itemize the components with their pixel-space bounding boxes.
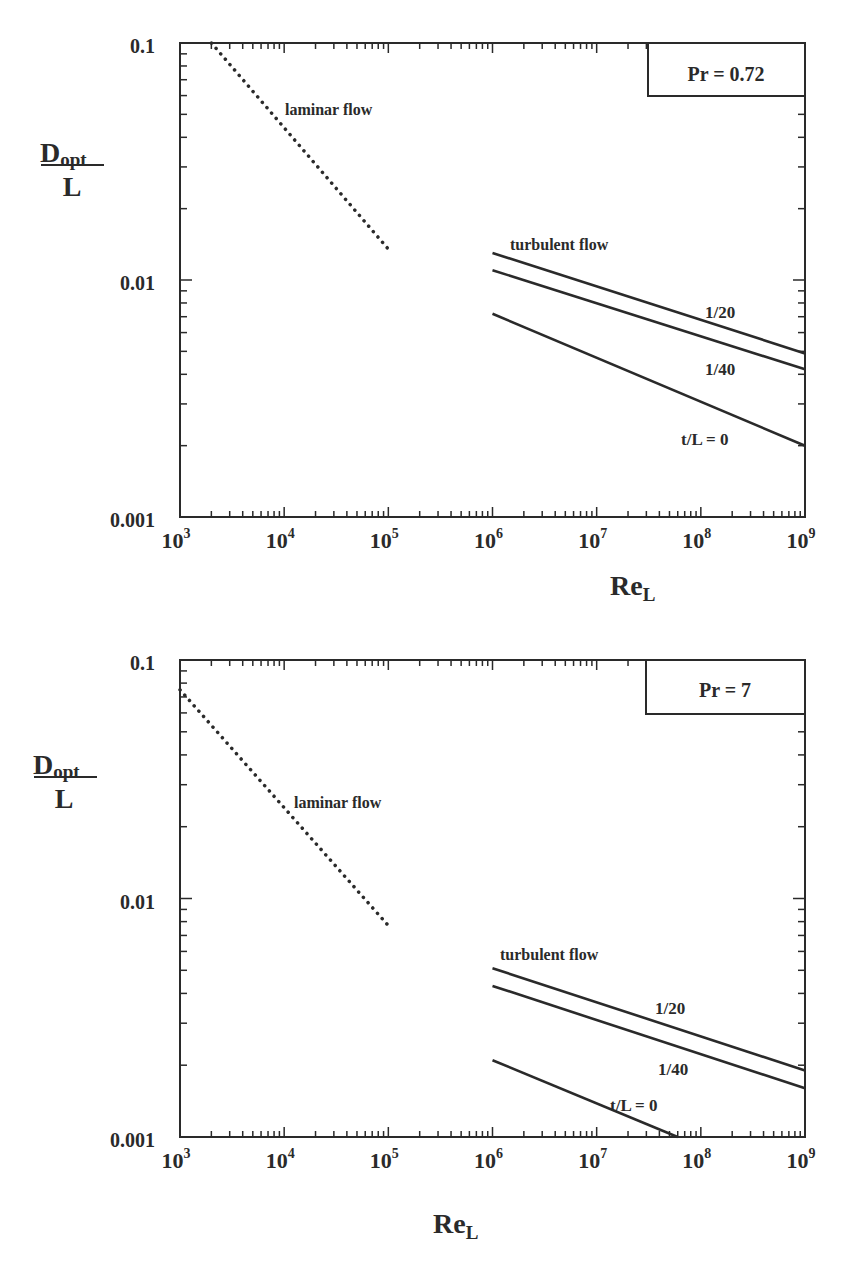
curve-label-1-20: 1/20: [705, 303, 735, 322]
laminar-flow-label: laminar flow: [285, 101, 373, 118]
curve-label-1-20: 1/20: [655, 999, 685, 1018]
x-tick-label: 103: [162, 526, 191, 553]
figure: Pr = 0.72 0.1 0.01 0.001 Dopt L 10310410…: [0, 0, 854, 1268]
plot-bottom: Pr = 7 0.1 0.01 0.001 Dopt L 10310410510…: [33, 652, 816, 1243]
curve-label-t-l-0: t/L = 0: [681, 430, 728, 449]
x-tick-labels: 103104105106107108109: [162, 1146, 816, 1173]
x-tick-label: 107: [578, 1146, 607, 1173]
x-axis-label: ReL: [610, 570, 655, 605]
turbulent-flow-curve: [493, 253, 806, 353]
y-tick-label: 0.001: [110, 509, 155, 531]
curves: [180, 690, 805, 1137]
y-tick-label: 0.1: [130, 652, 155, 674]
x-tick-label: 108: [682, 526, 711, 553]
y-tick-label: 0.01: [120, 272, 155, 294]
turbulent-flow-label: turbulent flow: [500, 946, 599, 963]
curve-label-1-40: 1/40: [658, 1060, 688, 1079]
x-tick-label: 107: [578, 526, 607, 553]
x-tick-label: 103: [162, 1146, 191, 1173]
prandtl-label: Pr = 7: [699, 679, 751, 701]
turbulent-flow-curve: [493, 270, 806, 369]
turbulent-flow-label: turbulent flow: [510, 236, 609, 253]
ticks: [180, 660, 805, 1137]
laminar-flow-curve: [211, 43, 388, 249]
y-tick-label: 0.01: [120, 891, 155, 913]
laminar-flow-label: laminar flow: [294, 794, 382, 811]
x-tick-label: 108: [682, 1146, 711, 1173]
y-axis-label-denominator: L: [55, 783, 74, 814]
x-tick-label: 109: [787, 1146, 816, 1173]
curve-label-1-40: 1/40: [705, 360, 735, 379]
turbulent-flow-curve: [493, 314, 806, 446]
x-tick-label: 104: [266, 526, 295, 553]
x-tick-label: 105: [370, 526, 399, 553]
plot-top: Pr = 0.72 0.1 0.01 0.001 Dopt L 10310410…: [40, 35, 816, 605]
x-tick-label: 109: [787, 526, 816, 553]
x-tick-label: 105: [370, 1146, 399, 1173]
turbulent-flow-curve: [493, 968, 806, 1070]
y-axis-label-denominator: L: [63, 171, 82, 202]
y-tick-label: 0.1: [130, 35, 155, 57]
y-tick-label: 0.001: [110, 1129, 155, 1151]
x-tick-label: 106: [474, 526, 503, 553]
plot-frame: [180, 660, 805, 1137]
x-axis-label: ReL: [433, 1208, 478, 1243]
x-tick-labels: 103104105106107108109: [162, 526, 816, 553]
prandtl-label: Pr = 0.72: [687, 63, 764, 85]
curve-label-t-l-0: t/L = 0: [610, 1096, 657, 1115]
x-tick-label: 106: [474, 1146, 503, 1173]
x-tick-label: 104: [266, 1146, 295, 1173]
turbulent-flow-curve: [493, 986, 806, 1088]
